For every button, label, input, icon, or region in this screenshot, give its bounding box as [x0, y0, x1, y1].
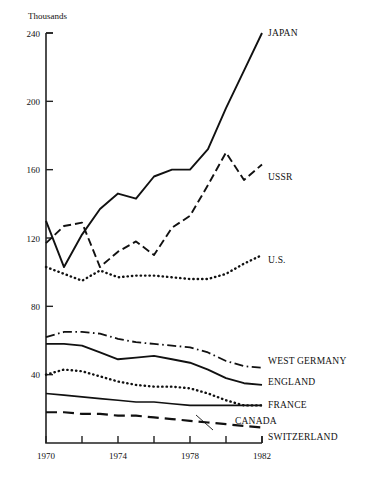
y-tick-label: 200	[27, 97, 41, 107]
series-label-england: ENGLAND	[268, 377, 315, 387]
series-label-west-germany: WEST GERMANY	[268, 356, 347, 366]
y-tick-label: 80	[31, 302, 41, 312]
series-label-ussr: USSR	[268, 172, 293, 182]
x-tick-label: 1970	[37, 451, 56, 461]
y-tick-label: 120	[27, 234, 41, 244]
series-line-west-germany	[46, 332, 262, 368]
y-axis-ticks: 4080120160200240	[27, 29, 54, 381]
x-tick-label: 1978	[181, 451, 200, 461]
line-chart: Thousands 4080120160200240 1970197419781…	[0, 0, 366, 485]
series-label-canada: CANADA	[235, 416, 277, 426]
series-label-u-s-: U.S.	[268, 255, 286, 265]
axes	[46, 33, 262, 443]
series-line-japan	[46, 33, 262, 267]
series-line-u-s-	[46, 255, 262, 281]
y-tick-label: 160	[27, 165, 41, 175]
unit-label: Thousands	[28, 11, 67, 21]
series-group	[46, 33, 262, 428]
y-tick-label: 240	[27, 29, 41, 39]
series-line-france	[46, 370, 262, 406]
series-line-england	[46, 344, 262, 385]
y-tick-label: 40	[31, 370, 41, 380]
series-line-switzerland	[46, 412, 262, 427]
series-labels: JAPANUSSRU.S.WEST GERMANYENGLANDFRANCECA…	[235, 28, 347, 442]
x-tick-label: 1982	[253, 451, 271, 461]
x-tick-label: 1974	[109, 451, 128, 461]
x-axis-ticks: 1970197419781982	[37, 436, 271, 461]
series-label-france: FRANCE	[268, 400, 307, 410]
axis-lines	[46, 33, 262, 443]
series-label-switzerland: SWITZERLAND	[268, 432, 338, 442]
chart-svg: Thousands 4080120160200240 1970197419781…	[0, 0, 366, 485]
series-line-ussr	[46, 153, 262, 267]
series-label-japan: JAPAN	[268, 28, 298, 38]
series-line-canada	[46, 393, 262, 405]
